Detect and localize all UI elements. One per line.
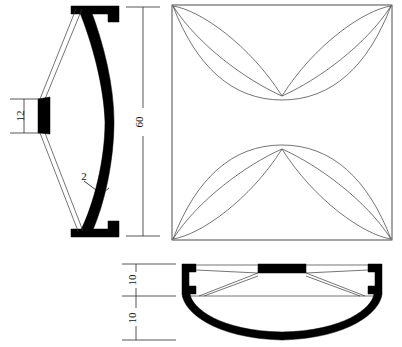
top-flange-bar (71, 6, 119, 14)
bottom-flange-stub (108, 221, 119, 229)
technical-drawing-sheet: 2 12 60 (0, 0, 402, 347)
dimension-label-60: 60 (133, 116, 145, 128)
dimension-label-2: 2 (81, 170, 87, 182)
bottom-flange-bar (71, 229, 119, 237)
left-rim-block (38, 97, 50, 134)
dimension-label-10-lower: 10 (126, 312, 138, 324)
top-flange-stub (108, 14, 119, 22)
drawing-canvas: 2 12 60 (0, 0, 402, 347)
dimension-label-10-upper: 10 (126, 274, 138, 286)
bottom-center-rib (258, 264, 306, 273)
dimension-label-12: 12 (14, 111, 26, 122)
